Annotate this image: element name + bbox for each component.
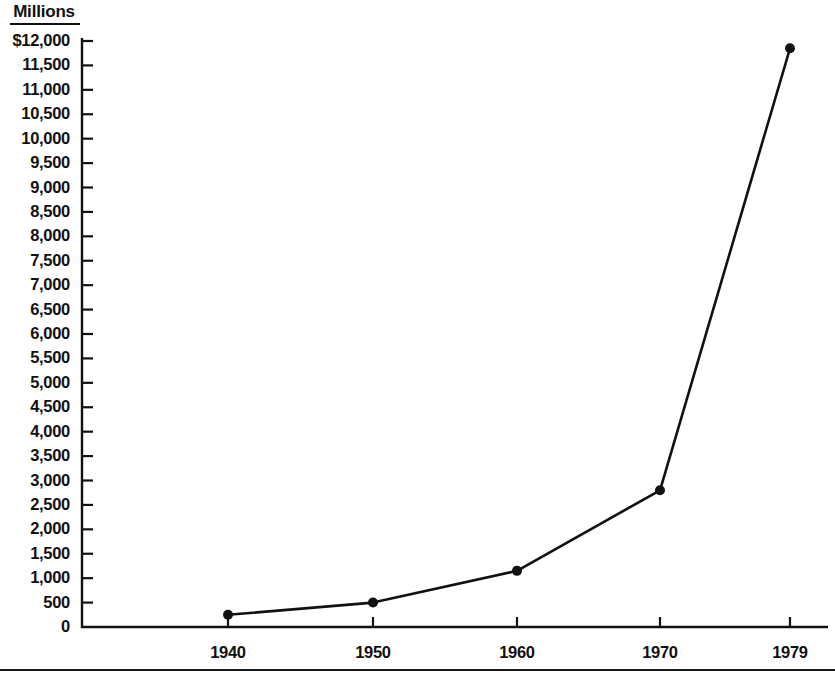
line-chart-figure: Millions $12,00011,50011,00010,50010,000…: [0, 0, 835, 678]
axis-spine: [82, 38, 828, 627]
data-point-1979: [785, 43, 795, 53]
data-point-1960: [512, 566, 522, 576]
x-axis-ticks: [228, 617, 790, 627]
data-point-markers: [223, 43, 795, 619]
data-point-1940: [223, 610, 233, 620]
plot-area: [0, 0, 835, 678]
data-series-line: [228, 48, 790, 614]
data-point-1970: [655, 485, 665, 495]
data-point-1950: [368, 598, 378, 608]
y-axis-ticks: [82, 41, 93, 603]
footer-rule: [0, 669, 835, 671]
axis-lines: [82, 38, 828, 627]
